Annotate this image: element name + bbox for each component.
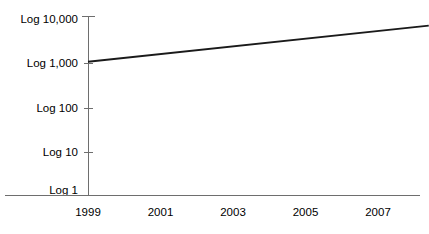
y-tick-label-log-100: Log 100	[36, 102, 78, 114]
x-tick-label-1999: 1999	[75, 206, 101, 218]
y-tick-label-log-1-000: Log 1,000	[27, 57, 78, 69]
x-tick-label-2001: 2001	[148, 206, 174, 218]
y-tick-label-log-10-000: Log 10,000	[20, 13, 78, 25]
chart-background	[0, 0, 429, 234]
x-tick-label-2003: 2003	[220, 206, 246, 218]
y-tick-label-log-10: Log 10	[43, 146, 78, 158]
log-scale-line-chart: Log 10,000Log 1,000Log 100Log 10Log 1 19…	[0, 0, 429, 234]
y-tick-label-log-1: Log 1	[49, 184, 78, 196]
chart-container: Log 10,000Log 1,000Log 100Log 10Log 1 19…	[0, 0, 429, 234]
x-tick-label-2007: 2007	[365, 206, 391, 218]
x-tick-label-2005: 2005	[293, 206, 319, 218]
